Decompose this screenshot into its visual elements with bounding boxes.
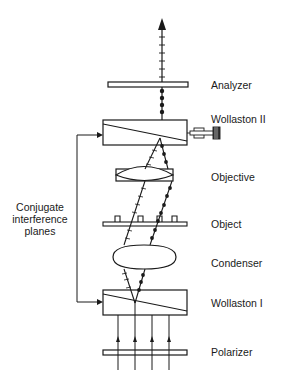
analyzer-wollaston-beam [160, 87, 164, 120]
output-arrow-icon [158, 18, 166, 30]
label-wollaston-2: Wollaston II [211, 113, 266, 125]
label-conjugate-line2: interference [0, 213, 80, 225]
extraordinary-ray [135, 138, 172, 303]
label-conjugate-line3: planes [0, 225, 80, 237]
label-condenser: Condenser [211, 257, 262, 269]
label-object: Object [211, 218, 241, 230]
label-conjugate-line1: Conjugate [0, 201, 80, 213]
input-arrow-icons [116, 336, 171, 342]
output-beam [158, 18, 166, 85]
analyzer-plate [108, 82, 188, 87]
label-conjugate-planes: Conjugate interference planes [0, 201, 80, 237]
label-wollaston-1: Wollaston I [211, 297, 263, 309]
bracket-arrow-icon [97, 299, 103, 305]
condenser-lens [113, 245, 176, 269]
label-polarizer: Polarizer [211, 346, 252, 358]
wollaston-2-prism [103, 120, 187, 145]
wollaston-1-prism [103, 290, 187, 315]
label-analyzer: Analyzer [211, 79, 252, 91]
adjustment-screw-icon[interactable] [187, 127, 220, 139]
conjugate-planes-bracket [77, 132, 103, 305]
bracket-arrow-icon [97, 132, 103, 138]
dic-diagram [0, 0, 281, 378]
label-objective: Objective [211, 171, 255, 183]
objective-lens [116, 167, 173, 182]
ordinary-ray [122, 138, 160, 303]
object-specimen [103, 216, 187, 226]
polarizer-plate [103, 350, 187, 355]
